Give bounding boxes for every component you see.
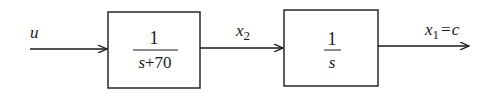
block-1-numerator: 1 bbox=[150, 28, 159, 48]
block-1-denominator: s+70 bbox=[138, 53, 171, 72]
output-label: x1=c bbox=[424, 20, 460, 42]
block-diagram: u 1 s+70 x2 1 s x1=c bbox=[0, 0, 486, 93]
input-signal-u: u bbox=[30, 23, 107, 49]
block-2: 1 s bbox=[284, 10, 378, 86]
x2-label: x2 bbox=[235, 21, 250, 43]
signal-x2: x2 bbox=[200, 21, 283, 48]
input-label: u bbox=[30, 23, 39, 42]
output-signal-x1: x1=c bbox=[378, 20, 469, 46]
block-2-denominator: s bbox=[329, 53, 336, 72]
block-2-numerator: 1 bbox=[328, 29, 337, 49]
block-1: 1 s+70 bbox=[108, 12, 200, 88]
